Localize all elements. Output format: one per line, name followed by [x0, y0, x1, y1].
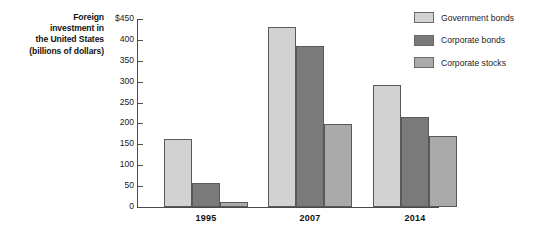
y-axis-tick-mark	[138, 40, 143, 41]
y-axis-title-line-2: investment in	[0, 23, 104, 34]
y-axis-tick-label: 50	[124, 180, 134, 190]
y-axis-tick-label: 300	[120, 76, 134, 86]
y-axis-tick-mark	[138, 144, 143, 145]
y-axis-tick-mark	[138, 82, 143, 83]
y-axis-title-line-1: Foreign	[0, 12, 104, 23]
bar[interactable]	[220, 202, 248, 207]
x-axis-category-label: 2014	[373, 213, 457, 223]
bar-group: 1995	[164, 19, 252, 207]
y-axis-tick-mark	[138, 207, 143, 208]
y-axis-tick-mark	[138, 19, 143, 20]
bar[interactable]	[429, 136, 457, 207]
legend-item[interactable]: Corporate stocks	[414, 56, 539, 69]
x-axis-category-label: 1995	[164, 213, 248, 223]
y-axis-tick-mark	[138, 186, 143, 187]
legend-swatch	[414, 57, 434, 68]
x-axis-category-label: 2007	[268, 213, 352, 223]
y-axis-tick-mark	[138, 61, 143, 62]
legend-label: Government bonds	[441, 13, 514, 23]
legend-item[interactable]: Corporate bonds	[414, 34, 539, 47]
y-axis-line	[137, 19, 138, 207]
x-axis-line	[137, 207, 439, 208]
y-axis-title: Foreign investment in the United States …	[0, 12, 104, 57]
y-axis-tick-label: 0	[129, 201, 134, 211]
bar[interactable]	[324, 124, 352, 207]
bar[interactable]	[296, 46, 324, 207]
y-axis-title-line-3: the United States	[0, 34, 104, 45]
bar[interactable]	[268, 27, 296, 207]
y-axis-tick-label: 100	[120, 159, 134, 169]
bar-group: 2007	[268, 19, 356, 207]
y-axis-tick-mark	[138, 103, 143, 104]
bar[interactable]	[401, 117, 429, 207]
y-axis-tick-mark	[138, 123, 143, 124]
y-axis-tick-label: 350	[120, 55, 134, 65]
legend-swatch	[414, 35, 434, 46]
y-axis-tick-label: 200	[120, 117, 134, 127]
chart-legend: Government bondsCorporate bondsCorporate…	[414, 11, 539, 79]
y-axis-tick-mark	[138, 165, 143, 166]
bar[interactable]	[192, 183, 220, 207]
y-axis-tick-label: 400	[120, 34, 134, 44]
legend-item[interactable]: Government bonds	[414, 11, 539, 24]
y-axis-tick-label: 250	[120, 97, 134, 107]
legend-label: Corporate bonds	[441, 35, 505, 45]
y-axis-tick-label: 150	[120, 138, 134, 148]
bar[interactable]	[373, 85, 401, 207]
y-axis-title-line-4: (billions of dollars)	[0, 46, 104, 57]
bar[interactable]	[164, 139, 192, 207]
legend-label: Corporate stocks	[441, 58, 506, 68]
legend-swatch	[414, 12, 434, 23]
y-axis-tick-label: $450	[115, 13, 134, 23]
plot-area: 050100150200250300350400$450 19952007201…	[137, 19, 439, 207]
